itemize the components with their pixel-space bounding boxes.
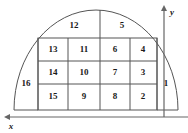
dome-outline-arc [14, 10, 178, 110]
region-label-1: 1 [164, 78, 169, 88]
region-label-9: 9 [82, 91, 87, 101]
region-label-6: 6 [113, 44, 118, 54]
region-label-2: 2 [141, 91, 146, 101]
region-label-8: 8 [113, 91, 118, 101]
region-label-5: 5 [120, 20, 125, 30]
region-label-10: 10 [80, 67, 90, 77]
region-label-4: 4 [141, 44, 146, 54]
region-label-15: 15 [49, 91, 59, 101]
region-label-7: 7 [113, 67, 118, 77]
region-label-13: 13 [49, 44, 59, 54]
region-label-3: 3 [141, 67, 146, 77]
y-axis-arrowhead [161, 5, 167, 11]
region-label-16: 16 [22, 78, 32, 88]
x-axis-arrowhead [4, 114, 10, 120]
x-axis-label: x [8, 121, 14, 131]
region-diagram: x y 1 2 3 4 5 6 7 8 9 10 11 12 13 14 15 … [0, 0, 188, 133]
region-label-14: 14 [49, 67, 59, 77]
region-label-11: 11 [80, 44, 89, 54]
region-label-12: 12 [70, 20, 80, 30]
y-axis-label: y [169, 7, 175, 17]
figure-container: x y 1 2 3 4 5 6 7 8 9 10 11 12 13 14 15 … [0, 0, 188, 133]
